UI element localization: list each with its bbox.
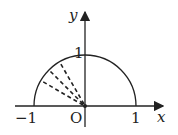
dashed-radius-150: [41, 81, 83, 106]
y-axis-label: y: [68, 6, 78, 24]
y-tick-1: 1: [74, 44, 84, 62]
dashed-radii: [41, 62, 84, 105]
dashed-radius-120: [60, 62, 85, 104]
origin-label: O: [70, 109, 82, 127]
x-tick-neg1: −1: [15, 109, 37, 127]
unit-semicircle-diagram: y x 1 −1 O 1: [0, 0, 178, 135]
origin-point: [83, 104, 87, 108]
x-axis-label: x: [157, 108, 166, 126]
dashed-radius-135: [49, 70, 83, 104]
x-tick-1: 1: [131, 109, 141, 127]
